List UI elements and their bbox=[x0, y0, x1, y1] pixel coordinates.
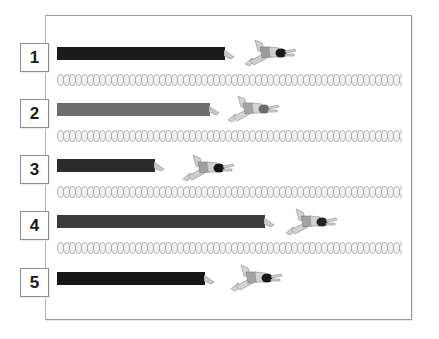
lane-distance-bar-2 bbox=[57, 103, 210, 116]
lane-bar-group-3 bbox=[57, 159, 167, 172]
lane-rope-3 bbox=[57, 186, 402, 198]
lane-rope-4 bbox=[57, 242, 402, 254]
lane-rope-float bbox=[399, 74, 402, 86]
lane-number-box-4[interactable]: 4 bbox=[20, 211, 49, 240]
swimmer-figure-lane-1 bbox=[243, 37, 297, 67]
lane-distance-bar-5 bbox=[57, 272, 205, 285]
bar-pointer-icon-3 bbox=[154, 160, 165, 172]
lane-rope-float bbox=[399, 130, 402, 142]
lane-distance-bar-3 bbox=[57, 159, 155, 172]
swimmer-figure-lane-3 bbox=[181, 152, 235, 182]
lane-number-label: 4 bbox=[30, 216, 39, 236]
lane-bar-group-5 bbox=[57, 272, 217, 285]
bar-pointer-icon-1 bbox=[224, 48, 235, 60]
lane-rope-2 bbox=[57, 130, 402, 142]
bar-pointer-icon-2 bbox=[209, 104, 220, 116]
lane-number-box-2[interactable]: 2 bbox=[20, 99, 49, 128]
lane-distance-bar-4 bbox=[57, 215, 265, 228]
lane-number-label: 3 bbox=[30, 160, 39, 180]
swimmer-figure-lane-4 bbox=[284, 206, 338, 236]
lane-number-box-5[interactable]: 5 bbox=[20, 268, 49, 297]
lane-number-box-3[interactable]: 3 bbox=[20, 155, 49, 184]
lane-number-label: 1 bbox=[30, 48, 39, 68]
lane-distance-bar-1 bbox=[57, 47, 225, 60]
lane-bar-group-1 bbox=[57, 47, 237, 60]
lane-number-label: 2 bbox=[30, 104, 39, 124]
lane-rope-1 bbox=[57, 74, 402, 86]
lane-number-box-1[interactable]: 1 bbox=[20, 43, 49, 72]
lane-rope-float bbox=[399, 242, 402, 254]
lane-bar-group-4 bbox=[57, 215, 277, 228]
bar-pointer-icon-5 bbox=[204, 273, 215, 285]
swimmer-figure-lane-2 bbox=[226, 93, 280, 123]
lane-rope-float bbox=[399, 186, 402, 198]
lane-number-label: 5 bbox=[30, 273, 39, 293]
swimmer-figure-lane-5 bbox=[229, 262, 283, 292]
lane-bar-group-2 bbox=[57, 103, 222, 116]
swimming-lanes-figure: 12345 bbox=[0, 0, 439, 339]
bar-pointer-icon-4 bbox=[264, 216, 275, 228]
